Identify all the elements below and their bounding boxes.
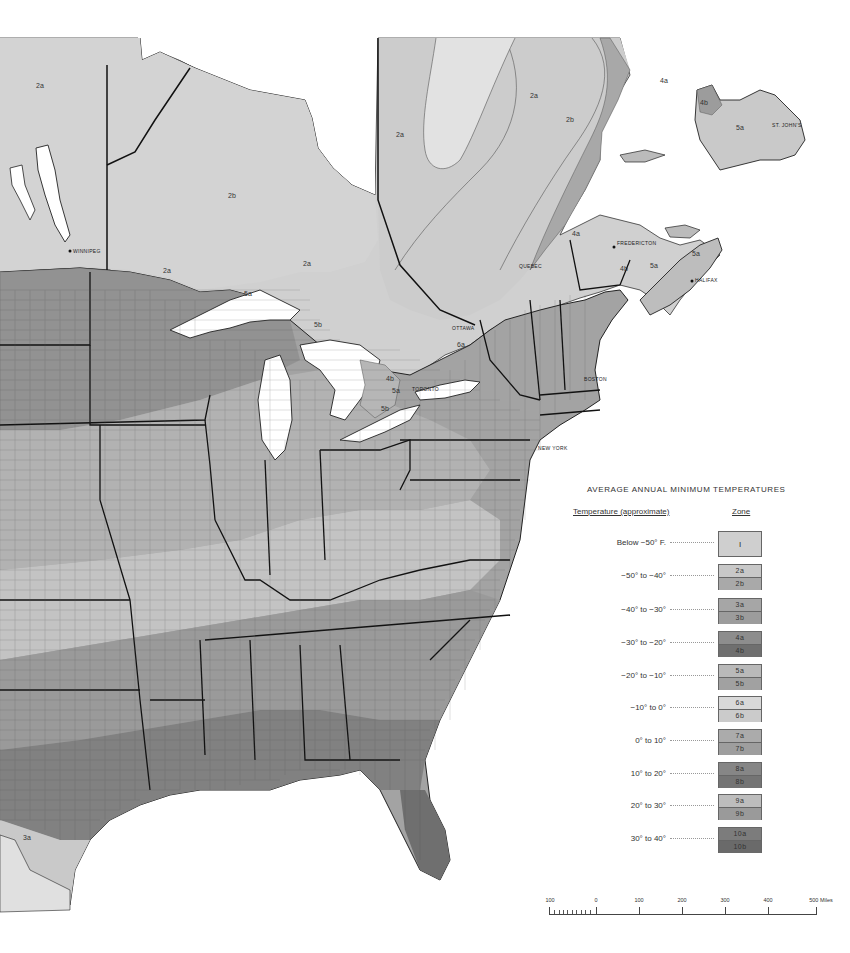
legend-temp-range: 0° to 10° (635, 736, 666, 745)
zone-label: 2a (530, 92, 538, 99)
legend-row-zone-7: 0° to 10° 7a 7b (560, 729, 770, 755)
legend-leader-dots (670, 642, 714, 643)
legend-leader-dots (670, 609, 714, 610)
legend-temp-range: −20° to −10° (621, 671, 666, 680)
city-label-st-johns: ST. JOHN'S (772, 122, 802, 128)
pei (665, 225, 700, 238)
legend-swatch-b: 4b (719, 645, 761, 657)
city-dot (69, 250, 72, 253)
scale-minor-tick (581, 910, 582, 914)
legend-temp-range: −50° to −40° (621, 571, 666, 580)
zone-label: 5a (736, 124, 744, 131)
legend-swatch: 5a 5b (718, 664, 762, 690)
zone-label: 3a (23, 834, 31, 841)
legend-swatch-a: 8a (719, 763, 761, 776)
city-dot (691, 280, 694, 283)
legend-swatch: 3a 3b (718, 598, 762, 624)
legend-swatch-a: 5a (719, 665, 761, 678)
zone-label: 5a (650, 262, 658, 269)
legend-temp-range: 30° to 40° (631, 834, 666, 843)
zone-label: 5a (692, 250, 700, 257)
legend-header-zone: Zone (732, 507, 750, 516)
legend-swatch: 6a 6b (718, 696, 762, 722)
legend-leader-dots (670, 575, 714, 576)
scale-minor-tick (563, 910, 564, 914)
legend-row-zone-9: 20° to 30° 9a 9b (560, 794, 770, 820)
legend-row-zone-3: −40° to −30° 3a 3b (560, 598, 770, 624)
zone-label: 5a (392, 387, 400, 394)
legend-row-zone-6: −10° to 0° 6a 6b (560, 696, 770, 722)
legend-swatch-b: 6b (719, 710, 761, 722)
city-label-toronto: TORONTO (412, 386, 439, 392)
legend-temp-range: 10° to 20° (631, 769, 666, 778)
legend-row-zone-10: 30° to 40° 10a 10b (560, 827, 770, 853)
legend-row-zone-2: −50° to −40° 2a 2b (560, 564, 770, 590)
legend-swatch: 8a 8b (718, 762, 762, 788)
scale-tick (596, 907, 597, 915)
city-label-winnipeg: WINNIPEG (73, 248, 101, 254)
scale-label: 100 (545, 897, 554, 903)
scale-minor-tick (576, 910, 577, 914)
zone-label: 2a (396, 131, 404, 138)
zone-label: 2b (228, 192, 236, 199)
legend-swatch: 7a 7b (718, 729, 762, 755)
zone-9-florida (400, 790, 450, 880)
scale-tick (639, 907, 640, 915)
legend-row-zone-1: Below −50° F. I (560, 531, 770, 557)
legend-leader-dots (670, 740, 714, 741)
legend-swatch-b: 7b (719, 743, 761, 755)
legend-swatch-a: 7a (719, 730, 761, 743)
scale-tick (768, 907, 769, 915)
zone-label: 4b (700, 99, 708, 106)
scale-bar: 100 0 100 200 300 400 500 Miles (545, 897, 845, 922)
zone-label: 2a (163, 267, 171, 274)
zone-label: 2b (566, 116, 574, 123)
legend-temp-range: −30° to −20° (621, 638, 666, 647)
legend-swatch: 2a 2b (718, 564, 762, 590)
anticosti-island (620, 150, 665, 162)
scale-tick (549, 907, 550, 915)
legend-swatch-a: 4a (719, 632, 761, 645)
scale-tick (816, 907, 817, 915)
legend-title: AVERAGE ANNUAL MINIMUM TEMPERATURES (587, 485, 786, 494)
zone-label: 5a (244, 290, 252, 297)
city-label-fredericton: FREDERICTON (617, 240, 656, 246)
zone-label: 5b (314, 321, 322, 328)
scale-line (549, 914, 817, 915)
scale-minor-tick (559, 910, 560, 914)
legend-swatch: 4a 4b (718, 631, 762, 657)
scale-label: 300 (720, 897, 729, 903)
city-label-new-york: NEW YORK (538, 445, 568, 451)
zone-label: 5b (381, 405, 389, 412)
zone-label: 4a (572, 230, 580, 237)
scale-label: 200 (677, 897, 686, 903)
scale-label: 500 Miles (809, 897, 833, 903)
zone-label: 2a (36, 82, 44, 89)
scale-minor-tick (554, 910, 555, 914)
legend-swatch-a: 10a (719, 828, 761, 841)
city-dot (613, 246, 616, 249)
zone-label: 4a (660, 77, 668, 84)
zone-label: 4b (386, 375, 394, 382)
zone-label: 2a (303, 260, 311, 267)
zone-label: 4b (620, 265, 628, 272)
scale-tick (682, 907, 683, 915)
legend-header-temperature: Temperature (approximate) (573, 507, 669, 516)
legend-row-zone-8: 10° to 20° 8a 8b (560, 762, 770, 788)
legend-temp-range: Below −50° F. (617, 538, 666, 547)
scale-minor-tick (585, 910, 586, 914)
legend-row-zone-5: −20° to −10° 5a 5b (560, 664, 770, 690)
legend-swatch-b: 3b (719, 612, 761, 624)
scale-minor-tick (567, 910, 568, 914)
scale-minor-tick (572, 910, 573, 914)
legend-swatch-a: 3a (719, 599, 761, 612)
legend-swatch: I (718, 531, 762, 557)
zone-label: 6a (457, 341, 465, 348)
legend-swatch-a: 2a (719, 565, 761, 578)
legend-row-zone-4: −30° to −20° 4a 4b (560, 631, 770, 657)
city-label-boston: BOSTON (584, 376, 607, 382)
legend-leader-dots (670, 838, 714, 839)
legend-leader-dots (670, 707, 714, 708)
legend-swatch-b: 5b (719, 678, 761, 690)
legend-swatch-a: 6a (719, 697, 761, 710)
